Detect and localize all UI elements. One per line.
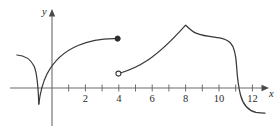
x-tick-label-6: 6 bbox=[150, 93, 155, 104]
y-axis-arrowhead bbox=[49, 9, 55, 17]
x-tick-label-8: 8 bbox=[183, 93, 188, 104]
closed-endpoint-dot bbox=[115, 36, 120, 41]
y-axis: y bbox=[41, 6, 55, 126]
x-axis: x 2 4 6 8 10 bbox=[10, 85, 274, 105]
y-axis-label: y bbox=[41, 6, 47, 17]
x-tick-label-2: 2 bbox=[83, 93, 88, 104]
curve-branch-left bbox=[17, 55, 39, 104]
x-tick-label-4: 4 bbox=[116, 93, 122, 104]
open-endpoint-circle bbox=[116, 71, 121, 76]
curve-branch-middle-left bbox=[39, 39, 117, 104]
x-tick-label-12: 12 bbox=[247, 93, 258, 104]
figure-container: y x 2 bbox=[0, 0, 280, 136]
x-axis-arrowhead bbox=[262, 85, 270, 91]
function-graph: y x 2 bbox=[0, 0, 280, 136]
x-axis-label: x bbox=[268, 88, 274, 99]
curve-branch-right bbox=[119, 25, 265, 113]
x-tick-label-10: 10 bbox=[214, 93, 225, 104]
curve-group bbox=[17, 25, 265, 113]
endpoint-markers bbox=[115, 36, 121, 76]
x-axis-tick-labels: 2 4 6 8 10 12 bbox=[83, 93, 258, 104]
